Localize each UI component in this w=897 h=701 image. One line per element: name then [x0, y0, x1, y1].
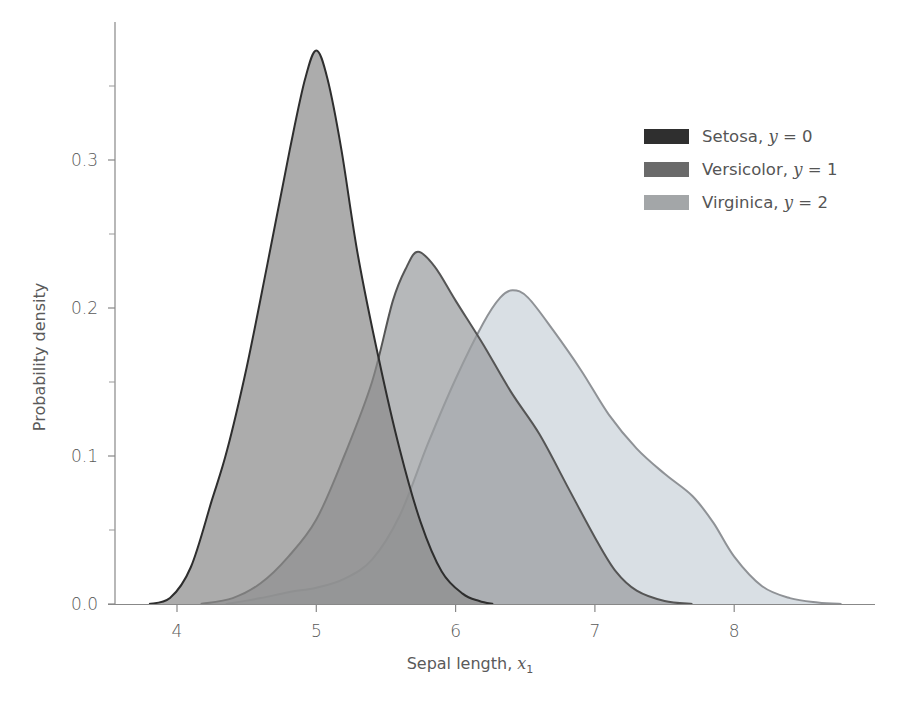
legend-swatch-versicolor [644, 162, 689, 177]
legend-item-versicolor: Versicolor, y = 1 [644, 153, 837, 186]
y-tick-label: 0.1 [71, 446, 98, 466]
legend-swatch-setosa [644, 129, 689, 144]
x-tick-label: 7 [589, 621, 600, 641]
x-axis-label: Sepal length, x1 [407, 654, 534, 676]
legend-label-setosa: Setosa, y = 0 [702, 127, 813, 146]
legend: Setosa, y = 0 Versicolor, y = 1 Virginic… [644, 120, 837, 219]
legend-swatch-virginica [644, 195, 689, 210]
legend-label-virginica: Virginica, y = 2 [702, 193, 828, 212]
legend-label-versicolor: Versicolor, y = 1 [702, 160, 837, 179]
x-tick-label: 5 [311, 621, 322, 641]
y-tick-label: 0.3 [71, 150, 98, 170]
y-tick-label: 0.2 [71, 298, 98, 318]
legend-item-setosa: Setosa, y = 0 [644, 120, 837, 153]
density-chart: 0.00.10.20.345678 Probability density Se… [0, 0, 897, 701]
y-tick-label: 0.0 [71, 594, 98, 614]
y-axis-label: Probability density [30, 283, 49, 431]
legend-item-virginica: Virginica, y = 2 [644, 186, 837, 219]
x-tick-label: 6 [450, 621, 461, 641]
x-tick-label: 4 [172, 621, 183, 641]
x-tick-label: 8 [729, 621, 740, 641]
